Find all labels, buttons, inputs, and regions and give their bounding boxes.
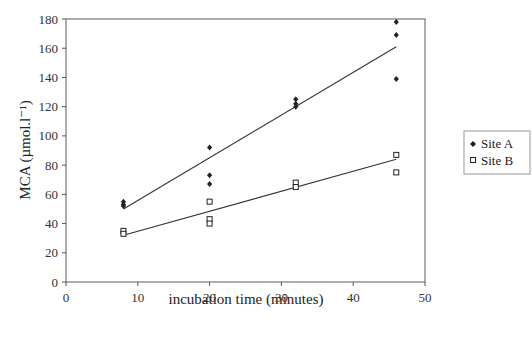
- data-point-square: [121, 231, 126, 236]
- legend: Site A Site B: [464, 131, 530, 174]
- y-tick-label: 0: [52, 275, 59, 290]
- x-tick-label: 0: [63, 290, 70, 305]
- data-point-square: [394, 170, 399, 175]
- scatter-chart: 020406080100120140160180 01020304050 MCA…: [0, 0, 532, 341]
- x-tick-label: 10: [131, 290, 144, 305]
- y-tick-label: 20: [45, 245, 58, 260]
- legend-label-site-a: Site A: [481, 136, 514, 151]
- open-square-icon: [471, 158, 476, 163]
- y-tick-label: 120: [39, 99, 59, 114]
- y-tick-label: 80: [45, 158, 58, 173]
- y-tick-label: 140: [39, 70, 59, 85]
- x-tick-label: 50: [419, 290, 432, 305]
- data-point-square: [394, 152, 399, 157]
- plot-area: [66, 19, 425, 282]
- y-tick-label: 180: [39, 12, 59, 27]
- y-tick-label: 160: [39, 41, 59, 56]
- y-axis: 020406080100120140160180: [39, 12, 67, 290]
- y-tick-label: 40: [45, 216, 58, 231]
- data-point-square: [293, 185, 298, 190]
- data-point-square: [207, 199, 212, 204]
- x-axis-title: incubation time (minutes): [169, 291, 324, 308]
- data-point-square: [207, 221, 212, 226]
- plot-border: [66, 19, 425, 282]
- x-tick-label: 40: [347, 290, 360, 305]
- y-tick-label: 60: [45, 187, 58, 202]
- y-axis-title: MCA (µmol.l⁻¹): [17, 100, 34, 199]
- legend-label-site-b: Site B: [481, 153, 513, 168]
- y-tick-label: 100: [39, 128, 59, 143]
